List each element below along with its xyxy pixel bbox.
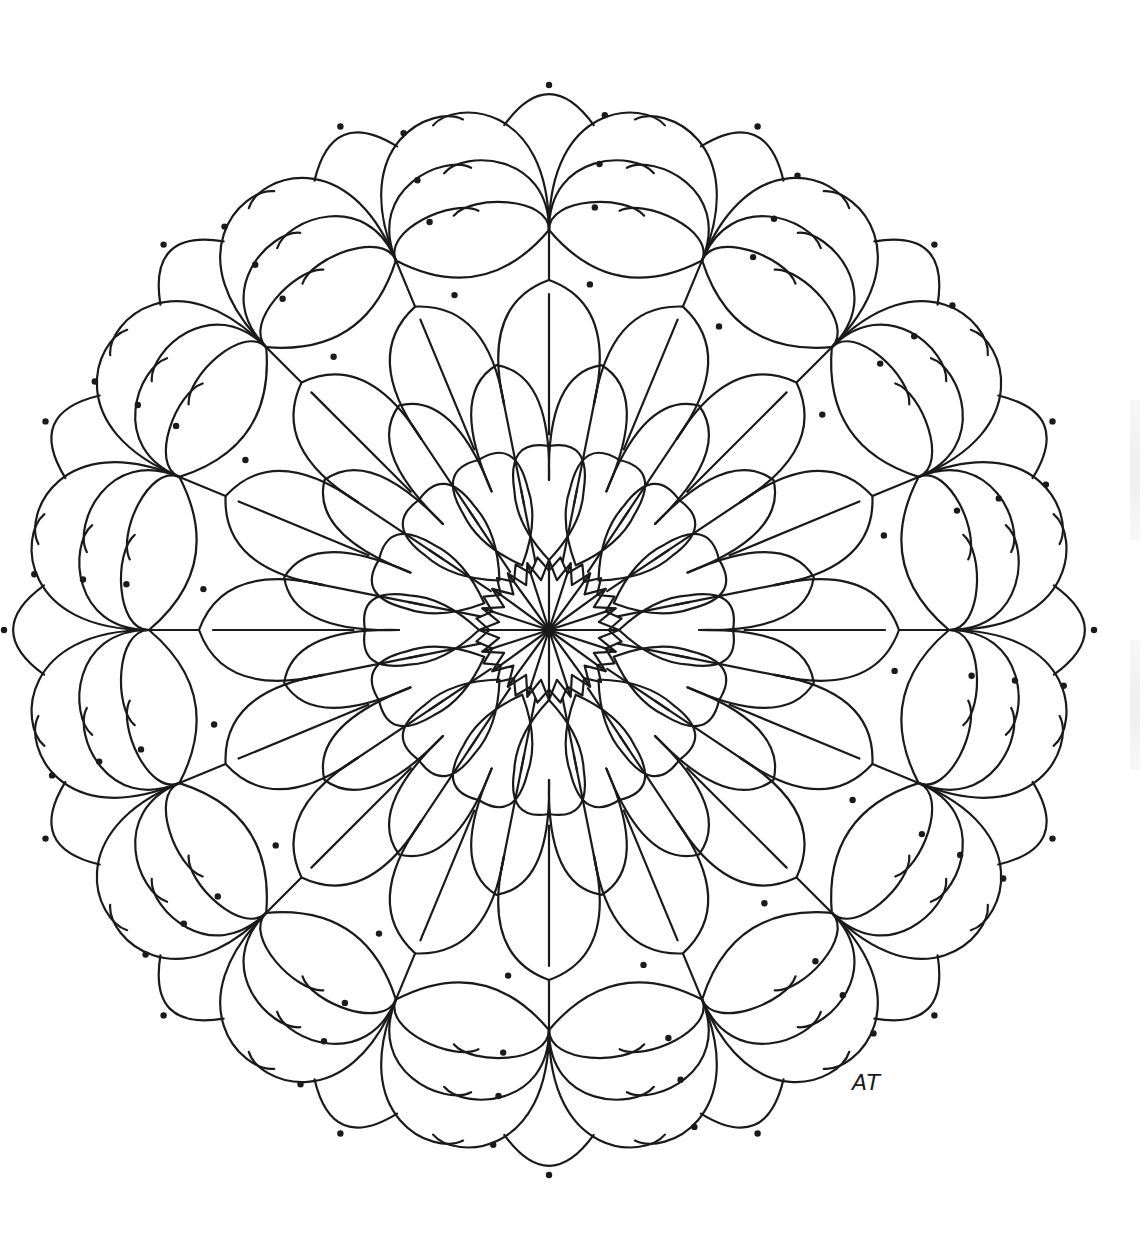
mandala-drawing: [0, 0, 1147, 1239]
artist-signature: AT: [852, 1070, 881, 1095]
center-star: [476, 557, 621, 702]
scan-edge-mark: [1130, 640, 1140, 770]
scan-edge-mark: [1130, 400, 1140, 540]
